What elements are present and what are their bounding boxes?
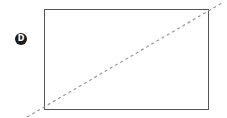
label-badge: D: [15, 33, 27, 45]
dashed-diagonal: [27, 3, 222, 117]
diagram-canvas: [0, 0, 227, 118]
